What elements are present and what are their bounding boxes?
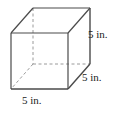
hidden-edge-bottom-left-diagonal (11, 64, 33, 89)
visible-edges-group (11, 8, 90, 89)
label-width-5in: 5 in. (22, 95, 42, 106)
label-depth-5in: 5 in. (82, 72, 102, 83)
edge-depth-top-left (11, 8, 33, 33)
cube-figure: 5 in. 5 in. 5 in. (0, 0, 121, 113)
label-height-5in: 5 in. (88, 29, 108, 40)
cube-drawing (0, 0, 121, 113)
edge-depth-top-right (68, 8, 90, 33)
